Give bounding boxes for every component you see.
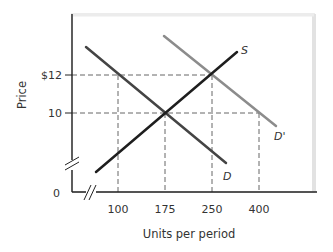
- supply-demand-chart: $12 10 0 100 175 250 400 S D D' Price Un…: [0, 0, 333, 252]
- demand-curve-d: [86, 47, 226, 163]
- y-tick-label-10: 10: [48, 107, 62, 120]
- x-axis-title: Units per period: [143, 227, 235, 241]
- plot-frame: [72, 14, 314, 192]
- axes: [72, 14, 317, 192]
- y-tick-label-0: 0: [53, 187, 60, 200]
- y-tick-label-12: $12: [41, 69, 62, 82]
- x-tick-label-400: 400: [249, 203, 270, 216]
- x-tick-label-175: 175: [155, 203, 176, 216]
- y-axis-title: Price: [15, 81, 29, 109]
- x-tick-label-250: 250: [202, 203, 223, 216]
- curve-label-d: D: [223, 170, 231, 183]
- curve-label-s: S: [241, 44, 248, 57]
- y-ticks: [65, 75, 72, 113]
- x-tick-label-100: 100: [108, 203, 129, 216]
- curve-label-d-prime: D': [274, 130, 286, 143]
